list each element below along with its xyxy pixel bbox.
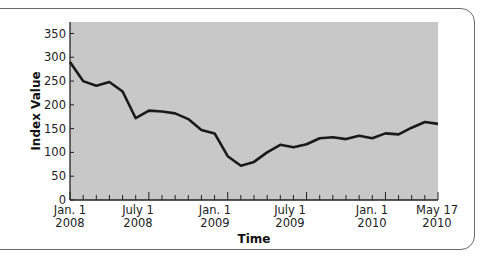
- x-tick-label: 2008: [55, 216, 84, 230]
- x-tick-label: 2010: [357, 216, 386, 230]
- x-tick-label: 2010: [422, 216, 451, 230]
- x-tick-label: May 17: [416, 203, 458, 217]
- y-tick-label: 250: [44, 74, 66, 88]
- x-tick-label: 2009: [275, 216, 304, 230]
- x-tick-label: July 1: [273, 203, 306, 217]
- x-tick-label: 2009: [200, 216, 229, 230]
- x-tick-label: July 1: [121, 203, 154, 217]
- x-tick-label: Jan. 1: [355, 203, 388, 217]
- y-tick-label: 100: [44, 145, 66, 159]
- y-axis: 050100150200250300350: [44, 22, 74, 207]
- x-tick-label: 2008: [123, 216, 152, 230]
- x-tick-label: Jan. 1: [198, 203, 231, 217]
- x-axis-title: Time: [238, 232, 271, 246]
- plot-area: [70, 22, 438, 200]
- line-chart: 050100150200250300350 Jan. 12008July 120…: [0, 0, 489, 264]
- y-tick-label: 350: [44, 27, 66, 41]
- y-tick-label: 300: [44, 50, 66, 64]
- y-axis-title: Index Value: [29, 71, 43, 150]
- y-tick-label: 50: [51, 169, 66, 183]
- y-tick-label: 150: [44, 122, 66, 136]
- x-tick-label: Jan. 1: [53, 203, 86, 217]
- y-tick-label: 200: [44, 98, 66, 112]
